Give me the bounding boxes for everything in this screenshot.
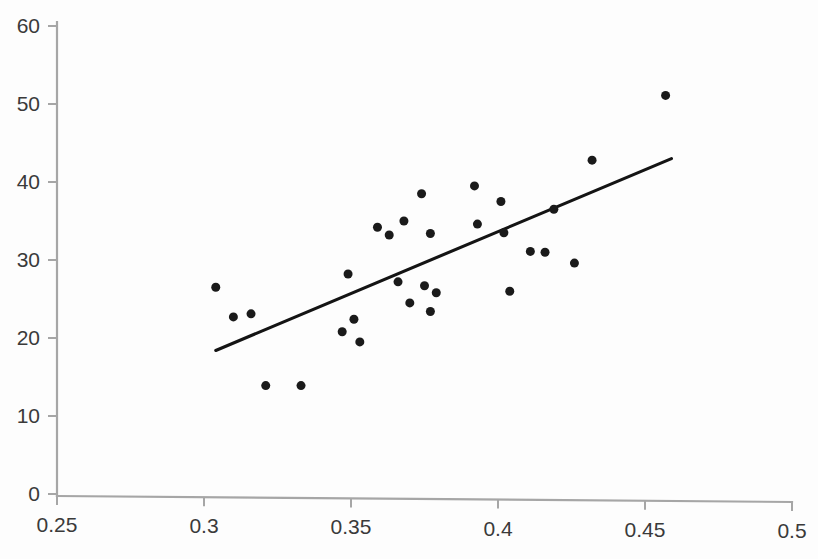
data-point [385,231,394,240]
chart-canvas: 01020304050600.250.30.350.40.450.5 [0,0,818,559]
data-point [426,307,435,316]
x-tick-label: 0.4 [483,517,513,540]
data-point [588,156,597,165]
data-point [338,327,347,336]
data-point [541,248,550,257]
data-point [399,217,408,226]
data-point [349,315,358,324]
data-point [297,381,306,390]
data-point [499,228,508,237]
data-point [473,220,482,229]
x-tick-label: 0.45 [625,518,666,541]
data-point [373,223,382,232]
scatter-chart: 01020304050600.250.30.350.40.450.5 [0,0,818,559]
x-tick-label: 0.35 [331,515,372,538]
data-point [549,205,558,214]
tick-marks [48,26,792,511]
data-point [211,283,220,292]
data-point [229,312,238,321]
data-point [426,229,435,238]
data-point [470,181,479,190]
y-tick-label: 30 [17,248,40,271]
y-tick-label: 20 [17,326,40,349]
data-point [432,288,441,297]
data-point [420,281,429,290]
data-point [417,189,426,198]
trend-line-segment [216,159,672,351]
data-points [211,91,670,390]
data-point [261,381,270,390]
y-tick-label: 10 [17,404,40,427]
y-tick-label: 0 [28,482,40,505]
data-point [661,91,670,100]
data-point [526,247,535,256]
y-tick-label: 60 [17,14,40,37]
data-point [505,287,514,296]
data-point [394,277,403,286]
data-point [405,298,414,307]
data-point [496,197,505,206]
data-point [247,309,256,318]
tick-labels: 01020304050600.250.30.350.40.450.5 [17,14,807,542]
y-tick-label: 40 [17,170,40,193]
y-tick-label: 50 [17,92,40,115]
data-point [344,270,353,279]
x-axis-line [57,496,792,502]
data-point [570,259,579,268]
x-tick-label: 0.3 [189,514,218,537]
x-tick-label: 0.5 [777,519,806,542]
x-tick-label: 0.25 [37,513,78,536]
data-point [355,337,364,346]
trend-line [216,159,672,351]
